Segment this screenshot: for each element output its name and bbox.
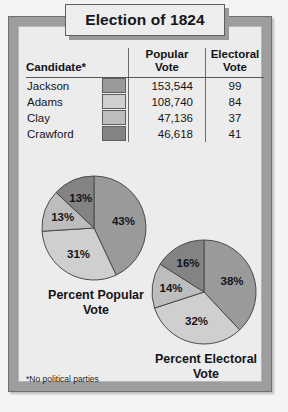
pie-chart-electoral-vote: 38%32%14%16% Percent Electoral Vote (150, 238, 262, 382)
pie-slice-label: 43% (112, 215, 135, 227)
table-header-row: Candidate* Popular Vote Electoral Vote (26, 48, 264, 77)
page-title: Election of 1824 (85, 11, 205, 29)
cell-popular-vote: 46,618 (129, 126, 206, 142)
table-row: Adams 108,740 84 (26, 94, 264, 110)
column-header-popular-vote: Popular Vote (129, 48, 206, 77)
pie-slice-label: 32% (185, 315, 208, 327)
pie-slice-label: 38% (220, 275, 243, 287)
table-row: Jackson 153,544 99 (26, 78, 264, 94)
column-header-electoral-vote: Electoral Vote (206, 48, 265, 77)
pie-slice-label: 14% (159, 282, 182, 294)
title-banner: Election of 1824 (65, 4, 225, 36)
cell-electoral-vote: 41 (206, 126, 265, 142)
table-row: Clay 47,136 37 (26, 110, 264, 126)
cell-electoral-vote: 37 (206, 110, 265, 126)
table-row: Crawford 46,618 41 (26, 126, 264, 142)
cell-popular-vote: 153,544 (129, 78, 206, 94)
table-body: Jackson 153,544 99 Adams 108,740 84 Clay… (26, 78, 264, 142)
cell-color-swatch (102, 94, 129, 110)
pie-popular-caption: Percent Popular Vote (40, 288, 152, 318)
results-table-container: Candidate* Popular Vote Electoral Vote (26, 48, 264, 168)
column-header-popular-line2: Vote (129, 61, 205, 74)
legend-swatch (102, 126, 126, 141)
legend-swatch (102, 110, 126, 125)
cell-candidate: Crawford (26, 126, 102, 142)
column-header-electoral-line1: Electoral (206, 48, 264, 61)
pie-slice-label: 16% (176, 257, 199, 269)
cell-electoral-vote: 84 (206, 94, 265, 110)
cell-popular-vote: 47,136 (129, 110, 206, 126)
pie-slice-label: 13% (69, 192, 92, 204)
pie-slice-label: 31% (67, 248, 90, 260)
cell-candidate: Adams (26, 94, 102, 110)
election-1824-figure: Election of 1824 Candidate* Popular Vote… (0, 0, 288, 412)
cell-candidate: Clay (26, 110, 102, 126)
footnote: *No political parties (26, 374, 99, 384)
cell-electoral-vote: 99 (206, 78, 265, 94)
cell-popular-vote: 108,740 (129, 94, 206, 110)
cell-candidate: Jackson (26, 78, 102, 94)
pie-electoral-caption: Percent Electoral Vote (150, 352, 262, 382)
pie-slice-label: 13% (51, 211, 74, 223)
pie-electoral-svg: 38%32%14%16% (150, 238, 262, 346)
pie-chart-popular-vote: 43%31%13%13% Percent Popular Vote (40, 174, 152, 318)
cell-color-swatch (102, 78, 129, 94)
cell-color-swatch (102, 110, 129, 126)
results-table: Candidate* Popular Vote Electoral Vote (26, 48, 264, 142)
pie-popular-svg: 43%31%13%13% (40, 174, 152, 282)
column-header-popular-line1: Popular (129, 48, 205, 61)
column-header-candidate: Candidate* (26, 48, 129, 77)
cell-color-swatch (102, 126, 129, 142)
column-header-electoral-line2: Vote (206, 61, 264, 74)
pie-popular-slices (42, 176, 146, 280)
legend-swatch (102, 94, 126, 109)
legend-swatch (102, 78, 126, 93)
